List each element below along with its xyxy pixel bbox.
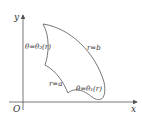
x-axis-label: x	[131, 104, 136, 114]
inner-arc-label: r=a	[49, 80, 62, 88]
y-axis-label: y	[13, 12, 20, 22]
upper-curve-label: θ=θ₂(r)	[25, 43, 51, 51]
origin-label: O	[13, 104, 21, 114]
polar-region-diagram: y x O θ=θ₂(r) r=b r=a θ=θ₁(r)	[0, 0, 142, 127]
inner-arc	[45, 65, 68, 93]
outer-arc-label: r=b	[87, 44, 101, 52]
lower-curve-label: θ=θ₁(r)	[76, 85, 102, 93]
